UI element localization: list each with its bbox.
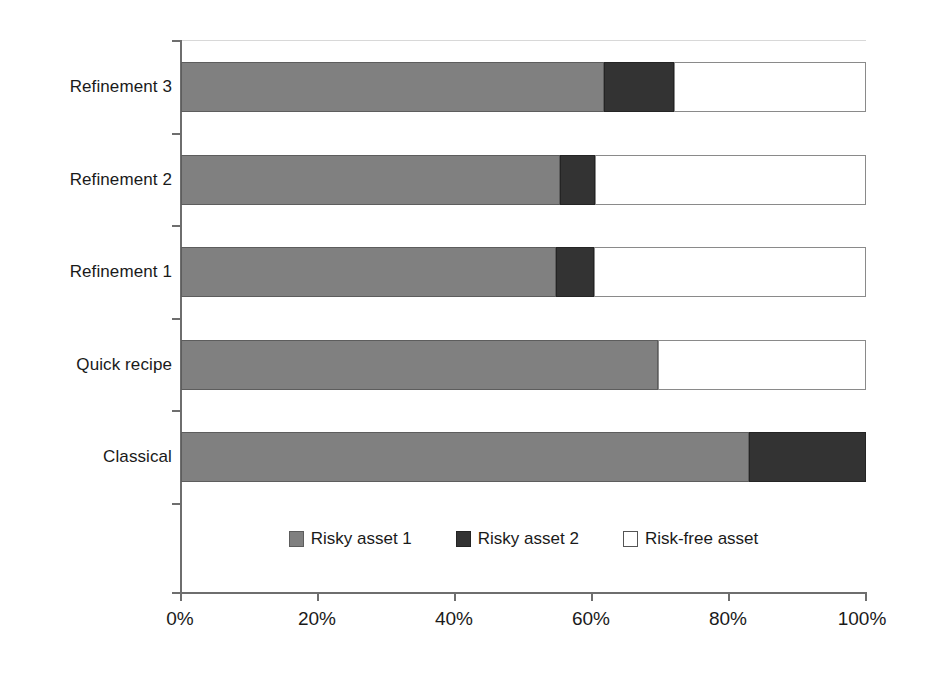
bar-segment — [658, 340, 866, 390]
category-label: Refinement 2 — [4, 170, 172, 190]
legend-item-risky-asset-2: Risky asset 2 — [456, 529, 579, 549]
category-label: Quick recipe — [4, 355, 172, 375]
bar-segment — [556, 247, 594, 297]
x-tick-label-40: 40% — [409, 607, 499, 631]
x-axis-tick — [454, 592, 456, 601]
legend-label: Risky asset 1 — [311, 529, 412, 549]
category-label: Refinement 1 — [4, 262, 172, 282]
bar-segment — [181, 247, 556, 297]
y-axis-tick — [172, 503, 181, 505]
x-tick-label-80: 80% — [683, 607, 773, 631]
y-axis-label-refinement-3: Refinement 3 — [0, 77, 172, 97]
legend-item-risky-asset-1: Risky asset 1 — [289, 529, 412, 549]
y-axis-tick — [172, 410, 181, 412]
legend-label: Risky asset 2 — [478, 529, 579, 549]
y-axis-tick — [172, 133, 181, 135]
y-axis-label-refinement-1: Refinement 1 — [0, 262, 172, 282]
bar-segment — [181, 340, 658, 390]
y-axis-label-classical: Classical — [0, 447, 172, 467]
bar-segment — [595, 155, 866, 205]
x-tick-label-20: 20% — [272, 607, 362, 631]
bar-segment — [594, 247, 866, 297]
bar-segment — [560, 155, 595, 205]
x-axis-tick — [317, 592, 319, 601]
y-axis-tick — [172, 225, 181, 227]
y-axis-tick — [172, 40, 181, 42]
bar-segment — [181, 62, 604, 112]
y-axis-label-quick-recipe: Quick recipe — [0, 355, 172, 375]
y-axis-tick — [172, 318, 181, 320]
y-axis-line — [180, 40, 182, 594]
legend-item-risk-free-asset: Risk-free asset — [623, 529, 758, 549]
plot-top-border — [181, 40, 866, 41]
category-label: Refinement 3 — [4, 77, 172, 97]
legend-swatch-icon — [456, 531, 471, 547]
x-axis-tick — [728, 592, 730, 601]
legend-swatch-icon — [623, 531, 638, 547]
chart-legend: Risky asset 1 Risky asset 2 Risk-free as… — [181, 522, 866, 556]
bar-segment — [181, 155, 560, 205]
bar-segment — [604, 62, 673, 112]
x-tick-label-100: 100% — [817, 607, 907, 631]
bar-segment — [674, 62, 866, 112]
category-label: Classical — [4, 447, 172, 467]
bar-segment — [749, 432, 866, 482]
x-axis-tick — [865, 592, 867, 601]
bar-segment — [181, 432, 749, 482]
legend-swatch-icon — [289, 531, 304, 547]
x-tick-label-0: 0% — [135, 607, 225, 631]
x-axis-line — [180, 592, 866, 594]
x-axis-tick — [591, 592, 593, 601]
x-tick-label-60: 60% — [546, 607, 636, 631]
y-axis-label-refinement-2: Refinement 2 — [0, 170, 172, 190]
stacked-bar-chart: Refinement 3 Refinement 2 Refinement 1 Q… — [0, 0, 936, 673]
legend-label: Risk-free asset — [645, 529, 758, 549]
x-axis-tick — [180, 592, 182, 601]
